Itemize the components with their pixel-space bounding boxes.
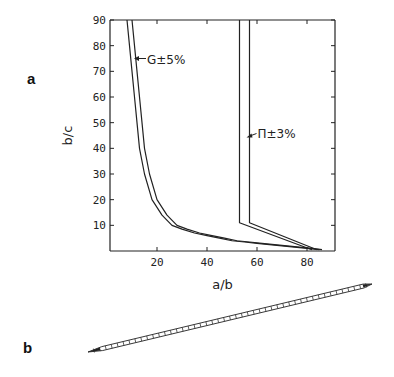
y-tick-label: 80 xyxy=(93,40,106,53)
y-tick-label: 90 xyxy=(93,14,106,27)
y-tick-label: 10 xyxy=(93,219,106,232)
panel-label-b: b xyxy=(23,339,32,356)
x-axis-label: a/b xyxy=(212,277,233,292)
panel-label-a: a xyxy=(27,70,36,87)
y-axis-label: b/c xyxy=(60,126,75,146)
figure: a b 20406080102030405060708090 G±5%Π±3% … xyxy=(0,0,394,377)
annotation-pi: Π±3% xyxy=(258,127,296,141)
x-tick-label: 60 xyxy=(250,256,263,269)
needle-tip-right xyxy=(363,284,372,287)
y-tick-label: 60 xyxy=(93,91,106,104)
y-tick-label: 40 xyxy=(93,142,106,155)
annotation-g: G±5% xyxy=(147,53,185,67)
y-tick-label: 50 xyxy=(93,117,106,130)
x-tick-label: 80 xyxy=(300,256,313,269)
y-tick-label: 20 xyxy=(93,194,106,207)
y-tick-label: 30 xyxy=(93,168,106,181)
x-tick-label: 20 xyxy=(150,256,163,269)
plot-area: 20406080102030405060708090 G±5%Π±3% xyxy=(93,14,335,269)
needle-particle xyxy=(88,283,372,352)
y-tick-label: 70 xyxy=(93,65,106,78)
x-tick-label: 40 xyxy=(200,256,213,269)
